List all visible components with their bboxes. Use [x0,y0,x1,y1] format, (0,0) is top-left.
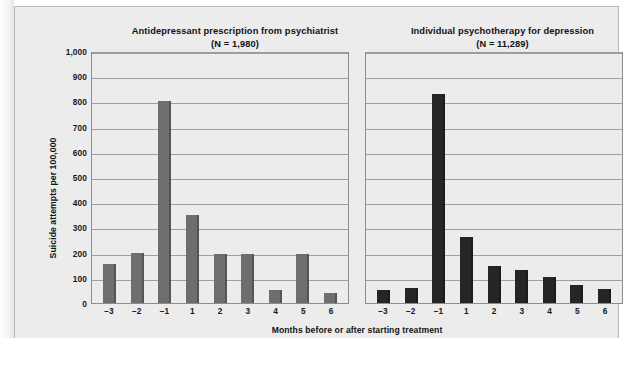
bar [598,289,611,303]
chart-panel-psychotherapy [365,52,623,304]
x-tick-label: −2 [397,306,425,322]
x-tick-label: 4 [536,306,564,322]
bar [324,293,337,303]
y-tick-label: 400 [43,198,87,208]
bar-slot [151,53,179,303]
x-tick-label: −3 [95,306,123,322]
x-tick-label: 2 [206,306,234,322]
y-tick-label: 300 [43,223,87,233]
bar-slot [480,53,508,303]
bar-slot [535,53,563,303]
page-scan-edge [0,0,14,370]
y-tick-label: 700 [43,123,87,133]
y-axis-tick-labels: 01002003004005006007008009001,000 [43,52,87,304]
x-tick-label: −1 [425,306,453,322]
bar [131,253,144,303]
y-tick-label: 100 [43,274,87,284]
x-tick-label: −1 [151,306,179,322]
figure-frame: Antidepressant prescription from psychia… [14,6,619,358]
x-axis-label: Months before or after starting treatmen… [91,325,623,335]
panel-left-title-text: Antidepressant prescription from psychia… [132,26,339,36]
x-axis-tick-labels-right: −3−2−1123456 [365,306,623,322]
bar [405,288,418,303]
y-tick-label: 900 [43,72,87,82]
bar [488,266,501,303]
x-tick-label: 4 [262,306,290,322]
bar-slot [206,53,234,303]
bar [103,264,116,303]
bar-slot [425,53,453,303]
bar-slot [234,53,262,303]
y-tick-label: 1,000 [43,47,87,57]
panel-title-right: Individual psychotherapy for depression … [360,25,633,50]
bar [515,270,528,303]
bar-slot [563,53,591,303]
x-tick-label: 3 [508,306,536,322]
bar-slot [370,53,398,303]
bar [214,254,227,303]
bar-slot [96,53,124,303]
y-tick-label: 800 [43,97,87,107]
bar [186,215,199,303]
x-axis-tick-labels-left: −3−2−1123456 [91,306,349,322]
bar-slot [453,53,481,303]
x-tick-label: 2 [480,306,508,322]
x-tick-label: 6 [317,306,345,322]
bar [570,285,583,303]
bar-group-left [92,53,348,303]
y-tick-label: 0 [43,299,87,309]
x-tick-label: 5 [563,306,591,322]
bar [377,290,390,303]
bar-slot [508,53,536,303]
panel-title-left: Antidepressant prescription from psychia… [85,25,385,50]
bar [296,254,309,303]
bar-slot [398,53,426,303]
bar-slot [179,53,207,303]
bar [269,290,282,303]
panel-right-sample-size: (N = 11,289) [360,38,633,51]
bar [432,94,445,303]
x-tick-label: −3 [369,306,397,322]
x-tick-label: 1 [452,306,480,322]
bar-slot [591,53,619,303]
bar-group-right [366,53,622,303]
bar-slot [317,53,345,303]
bar [241,254,254,303]
bar-slot [261,53,289,303]
x-tick-label: 3 [234,306,262,322]
x-tick-label: −2 [123,306,151,322]
bar-slot [289,53,317,303]
bar [158,101,171,303]
bar [460,237,473,303]
x-tick-label: 1 [178,306,206,322]
panel-right-title-text: Individual psychotherapy for depression [411,26,594,36]
chart-panel-antidepressant [91,52,349,304]
x-tick-label: 6 [591,306,619,322]
y-tick-label: 500 [43,173,87,183]
bar-slot [124,53,152,303]
panel-left-sample-size: (N = 1,980) [85,38,385,51]
page-bottom-margin [0,338,633,370]
x-tick-label: 5 [289,306,317,322]
y-tick-label: 600 [43,148,87,158]
bar [543,277,556,303]
y-tick-label: 200 [43,249,87,259]
